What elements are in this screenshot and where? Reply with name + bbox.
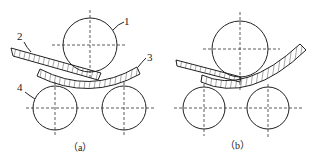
b-plate-bent	[201, 44, 306, 88]
panel-a: 1 2 3 4 （a）	[11, 10, 154, 153]
label-plate: 2	[17, 30, 23, 42]
label-bent-plate: 3	[147, 51, 153, 63]
caption-b: （b）	[225, 140, 250, 151]
leader-4	[25, 92, 35, 99]
panel-b: （b）	[174, 12, 306, 151]
leader-2	[24, 42, 31, 52]
three-roll-bending-diagram: 1 2 3 4 （a） （b）	[0, 0, 317, 164]
b-bottom-right-roller	[247, 87, 289, 129]
label-bottom-roller: 4	[17, 81, 23, 93]
label-top-roller: 1	[124, 15, 130, 27]
plate-straight	[11, 48, 101, 80]
leader-3	[138, 58, 146, 67]
leader-1	[113, 22, 124, 30]
caption-a: （a）	[68, 142, 92, 153]
